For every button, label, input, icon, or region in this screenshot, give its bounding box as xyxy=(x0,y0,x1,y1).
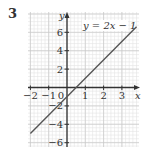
origin-label: 0 xyxy=(58,90,64,101)
y-tick-label: 4 xyxy=(57,45,63,56)
x-axis-label: x xyxy=(135,90,141,101)
y-tick-label: −6 xyxy=(48,137,63,147)
equation-label: y = 2x − 1 xyxy=(82,20,137,31)
line-chart: −2−1123−6−4−22460 yxy = 2x − 1 xyxy=(0,0,146,147)
x-tick-label: 3 xyxy=(119,90,125,101)
x-tick-label: −2 xyxy=(23,90,38,101)
y-tick-label: −4 xyxy=(48,119,63,130)
y-tick-label: 6 xyxy=(57,27,63,38)
x-tick-label: −1 xyxy=(41,90,56,101)
x-tick-label: 1 xyxy=(82,90,88,101)
x-tick-label: 2 xyxy=(100,90,106,101)
y-tick-label: 2 xyxy=(57,64,63,75)
y-axis-label: y xyxy=(58,10,65,21)
